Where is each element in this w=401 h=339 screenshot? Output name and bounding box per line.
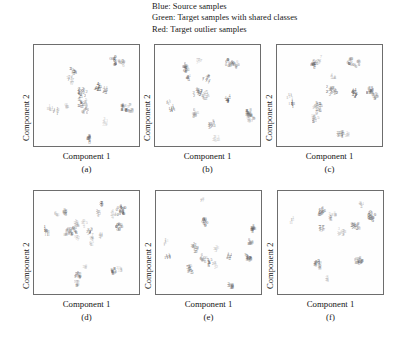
tsne-figure: Blue: Source samples Green: Target sampl…: [0, 0, 401, 339]
data-point: 2: [354, 224, 356, 228]
data-point: 3: [325, 278, 327, 282]
data-point: 6: [85, 106, 87, 110]
y-axis-label: Component 2: [143, 184, 153, 289]
x-axis-label: Component 1: [154, 151, 261, 161]
data-point: 7: [322, 227, 324, 231]
x-axis-label: Component 1: [277, 299, 384, 309]
data-point: 7: [200, 200, 202, 204]
x-axis-label: Component 1: [155, 299, 262, 309]
plot-area-d: 2222222222222222200000000000000000000004…: [33, 190, 140, 295]
data-point: 5: [86, 221, 88, 225]
data-point: 9: [377, 95, 379, 99]
data-point: 4: [351, 90, 353, 94]
data-point: 4: [359, 201, 361, 206]
data-point: 9: [75, 274, 77, 278]
data-point: 5: [81, 221, 83, 225]
data-point: 1: [168, 253, 170, 257]
data-point: 8: [361, 259, 364, 264]
data-point: 0: [123, 60, 125, 65]
data-point: 9: [251, 120, 253, 124]
data-point: 5: [189, 267, 191, 272]
legend-line-outlier: Red: Target outlier samples: [152, 24, 297, 35]
data-point: 3: [214, 247, 216, 252]
data-point: 8: [366, 91, 368, 95]
data-point: 4: [99, 232, 101, 236]
data-point: 8: [251, 228, 253, 232]
data-point: 6: [57, 213, 59, 218]
y-axis-label: Component 2: [264, 38, 274, 141]
legend: Blue: Source samples Green: Target sampl…: [152, 1, 297, 35]
data-point: 3: [72, 68, 74, 72]
data-point: 7: [71, 76, 73, 80]
x-axis-label: Component 1: [33, 299, 140, 309]
subplot-caption: (e): [155, 312, 262, 322]
y-axis-label: Component 2: [21, 184, 31, 289]
data-point: 8: [65, 212, 67, 217]
data-point: 2: [91, 228, 93, 232]
x-axis-label: Component 1: [33, 151, 140, 161]
data-point: 9: [374, 97, 376, 102]
data-point: 3: [213, 135, 215, 140]
data-point: 2: [83, 88, 85, 92]
data-point: 9: [319, 264, 321, 268]
data-point: 5: [83, 225, 85, 229]
data-point: 0: [238, 63, 240, 67]
data-point: 2: [196, 90, 198, 94]
data-point: 8: [87, 137, 89, 142]
data-point: 0: [123, 211, 125, 216]
data-point: 1: [57, 108, 59, 113]
data-point: 4: [354, 88, 356, 93]
data-point: 8: [358, 260, 360, 264]
data-point: 5: [191, 270, 194, 275]
data-point: 3: [85, 265, 87, 269]
data-point: 7: [200, 59, 202, 63]
y-axis-label: Component 2: [21, 38, 31, 141]
plot-area-c: 6666666666666677777770000000000000000000…: [276, 44, 383, 147]
data-point: 5: [319, 103, 321, 107]
data-point: 1: [292, 217, 294, 221]
data-point: 1: [47, 230, 49, 235]
data-point: 6: [321, 210, 323, 215]
data-point: 6: [183, 69, 185, 74]
data-point: 7: [319, 60, 322, 65]
data-point: 5: [204, 91, 206, 95]
data-point: 9: [129, 103, 131, 107]
data-point: 9: [245, 254, 247, 259]
data-point: 6: [203, 256, 205, 261]
data-point: 3: [119, 266, 121, 270]
data-point: 5: [80, 95, 82, 99]
data-point: 4: [114, 213, 116, 218]
data-point: 4: [330, 74, 332, 78]
data-point: 0: [115, 62, 117, 66]
data-point: 0: [202, 218, 204, 223]
data-point: 7: [209, 79, 211, 83]
data-point: 3: [339, 131, 341, 136]
data-point: 5: [313, 115, 316, 120]
subplot-caption: (d): [33, 312, 140, 322]
data-point: 5: [207, 264, 209, 268]
data-point: 8: [334, 213, 336, 218]
data-point: 8: [110, 268, 112, 272]
data-point: 2: [193, 91, 195, 96]
data-point: 4: [333, 76, 335, 81]
data-point: 1: [166, 255, 168, 259]
plot-area-b: 6666666666666667777777700000000000000000…: [154, 44, 261, 147]
data-point: 5: [78, 105, 80, 109]
plot-area-f: 4444444666666666666660000000000000000005…: [277, 190, 384, 295]
subplot-caption: (c): [276, 164, 383, 174]
data-point: 0: [355, 65, 357, 70]
data-point: 2: [333, 89, 335, 93]
data-point: 0: [358, 59, 360, 64]
data-point: 1: [288, 93, 290, 98]
data-point: 0: [120, 223, 122, 227]
data-point: 6: [65, 105, 67, 110]
data-point: 3: [218, 136, 220, 140]
data-point: 4: [230, 253, 232, 257]
data-point: 2: [96, 209, 98, 213]
data-point: 0: [229, 64, 231, 68]
data-point: 9: [131, 109, 134, 114]
data-point: 8: [251, 241, 253, 246]
data-point: 7: [68, 78, 70, 82]
data-point: 3: [338, 233, 340, 237]
subplot-caption: (f): [277, 312, 384, 322]
